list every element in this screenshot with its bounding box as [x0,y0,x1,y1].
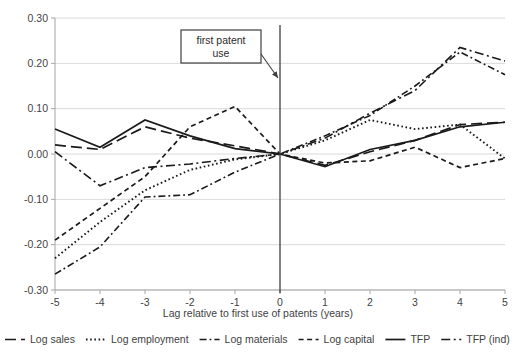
x-tick-label: 4 [457,296,463,308]
chart-container: -0.30-0.20-0.100.000.100.200.30 -5-4-3-2… [0,0,515,360]
y-tick-label: 0.10 [28,102,49,114]
legend-label-log-employment: Log employment [111,333,189,345]
annotation-line-2: use [213,47,230,59]
y-tick-label: -0.30 [24,284,48,296]
chart-legend: Log salesLog employmentLog materialsLog … [5,333,510,345]
annotation-line-1: first patent [196,34,245,46]
x-tick-label: 3 [412,296,418,308]
legend-label-tfp-ind: TFP (ind) [466,333,510,345]
y-tick-label: -0.20 [24,238,48,250]
line-chart: -0.30-0.20-0.100.000.100.200.30 -5-4-3-2… [0,0,515,360]
y-tick-label: 0.20 [28,57,49,69]
legend-label-log-materials: Log materials [225,333,288,345]
legend-label-tfp: TFP [410,333,430,345]
x-tick-label: 2 [367,296,373,308]
x-axis-title: Lag relative to first use of patents (ye… [163,307,353,319]
x-tick-label: 5 [502,296,508,308]
x-tick-label: -5 [50,296,59,308]
x-tick-label: -3 [140,296,149,308]
y-tick-label: 0.30 [28,12,49,24]
annotation-arrow-head [272,71,278,78]
x-tick-label: -4 [95,296,104,308]
y-tick-label: -0.10 [24,193,48,205]
legend-label-log-sales: Log sales [30,333,75,345]
y-axis-tick-labels: -0.30-0.20-0.100.000.100.200.30 [24,12,55,296]
x-axis-tick-labels: -5-4-3-2-1012345 [50,290,508,308]
legend-label-log-capital: Log capital [324,333,375,345]
y-tick-label: 0.00 [28,148,49,160]
first-patent-use-annotation: first patentuse [181,30,278,78]
